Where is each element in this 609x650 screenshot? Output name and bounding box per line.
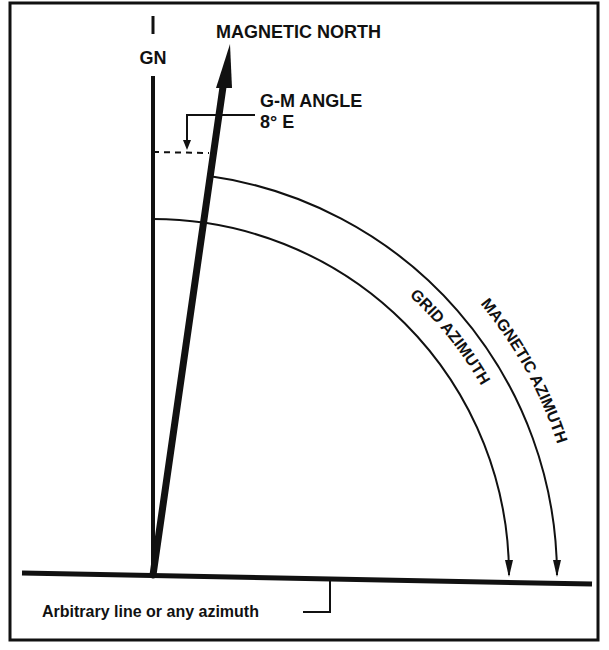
grid-north-label: GN: [140, 48, 167, 68]
gm-angle-title: G-M ANGLE: [260, 91, 362, 111]
arrowhead-icon: [183, 140, 191, 150]
gm-angle-diagram: GN MAGNETIC NORTH G-M ANGLE 8° E MAGNETI…: [0, 0, 609, 650]
magnetic-azimuth-label: MAGNETIC AZIMUTH: [478, 295, 571, 445]
grid-azimuth-arc: [153, 219, 513, 577]
magnetic-azimuth-text: MAGNETIC AZIMUTH: [478, 295, 571, 445]
grid-azimuth-label: GRID AZIMUTH: [407, 286, 493, 388]
baseline-leader: [303, 578, 330, 612]
magnetic-north-arrow: [153, 44, 232, 575]
gm-angle-value: 8° E: [260, 112, 294, 132]
arrowhead-icon: [553, 560, 561, 577]
baseline: [22, 573, 592, 584]
gm-angle-indicator: [153, 115, 255, 153]
arrowhead-icon: [505, 560, 513, 577]
baseline-label: Arbitrary line or any azimuth: [42, 603, 259, 620]
magnetic-north-label: MAGNETIC NORTH: [216, 22, 381, 42]
grid-azimuth-text: GRID AZIMUTH: [407, 286, 493, 388]
